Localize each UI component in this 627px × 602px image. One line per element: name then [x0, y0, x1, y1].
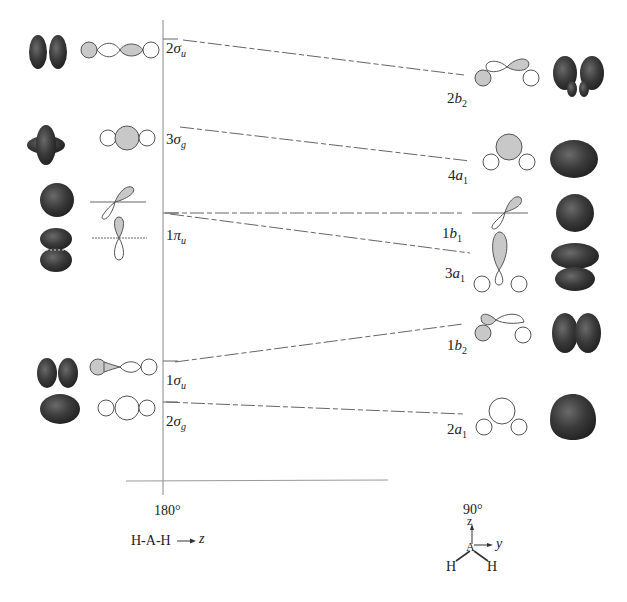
walsh-diagram: 2σu 3σg 1πu 1σu 2σg 2b2 4a1 1b1 3a1 1b2 …	[0, 0, 627, 602]
orbital-drawing-1su	[90, 359, 157, 375]
surface-1pu-a	[40, 183, 74, 217]
diagram-canvas	[0, 0, 627, 602]
correlation-1su-1b2	[175, 324, 463, 362]
surface-1su	[37, 358, 78, 388]
surface-1b1	[556, 194, 594, 232]
level-label-1b2: 1b2	[447, 337, 467, 353]
orbital-drawing-2b2	[475, 59, 539, 86]
z-axis-label-bent: z	[467, 514, 472, 529]
surface-1pu-b	[40, 228, 72, 272]
baseline-axis	[126, 480, 388, 481]
surface-4a1	[550, 140, 598, 178]
z-axis-label: z	[199, 531, 204, 547]
y-axis-label: y	[496, 536, 502, 552]
hydrogen-right-label: H	[487, 559, 497, 575]
correlation-1pu-3a1	[170, 214, 470, 253]
surface-2b2	[553, 56, 604, 97]
correlation-2su-2b2	[183, 40, 464, 75]
level-label-1pu: 1πu	[166, 227, 186, 243]
level-label-1b1: 1b1	[442, 225, 462, 241]
level-label-2b2: 2b2	[447, 90, 467, 106]
surface-3sg	[27, 125, 65, 165]
linear-molecule-label: H-A-H	[131, 533, 171, 549]
orbital-drawing-2a1	[476, 398, 527, 435]
surface-2su	[29, 35, 67, 69]
correlation-3sg-4a1	[180, 127, 470, 161]
correlation-lines	[165, 40, 470, 414]
z-arrowhead-icon	[190, 539, 196, 544]
orbital-drawing-3sg	[100, 126, 155, 150]
surface-1b2	[552, 313, 601, 353]
level-label-1su: 1σu	[166, 372, 186, 388]
orbital-drawing-4a1	[483, 134, 535, 170]
angle-label-90: 90°	[463, 502, 483, 518]
orbital-drawing-2su	[81, 42, 159, 58]
angle-label-180: 180°	[154, 503, 181, 519]
surface-2sg	[40, 394, 80, 424]
orbital-drawing-2sg	[98, 396, 155, 420]
level-label-3sg: 3σg	[166, 131, 186, 147]
level-label-2a1: 2a1	[447, 421, 467, 437]
level-label-2su: 2σu	[166, 40, 186, 56]
orbital-drawing-1pu-a	[90, 187, 146, 219]
correlation-2sg-2a1	[166, 402, 463, 414]
level-label-2sg: 2σg	[166, 413, 186, 429]
orbital-drawing-3a1	[474, 232, 527, 292]
orbital-drawing-1b1	[472, 197, 528, 229]
level-label-4a1: 4a1	[448, 167, 468, 183]
orbital-drawing-1pu-b	[92, 217, 147, 260]
center-atom-label: A	[466, 540, 475, 555]
level-label-3a1: 3a1	[445, 265, 465, 281]
surface-3a1	[551, 243, 599, 291]
surface-2a1	[550, 394, 596, 440]
hydrogen-left-label: H	[446, 559, 456, 575]
orbital-drawing-1b2	[475, 314, 531, 343]
